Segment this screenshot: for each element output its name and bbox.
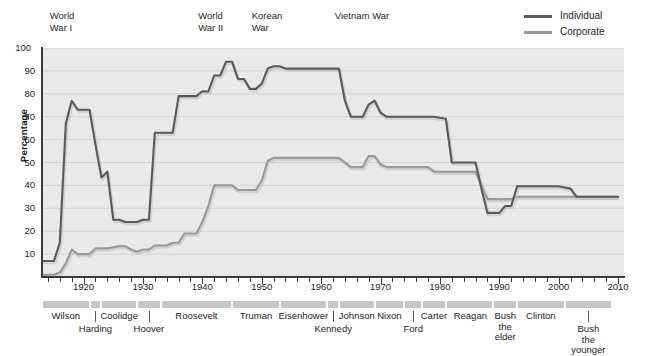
x-axis-tick (119, 278, 120, 282)
x-axis-tick (214, 278, 215, 282)
president-label-line: Wilson (50, 311, 82, 322)
president-label: Bushtheyounger (570, 324, 607, 356)
president-label-line: Ford (403, 324, 424, 335)
president-label-line: Eisenhower (277, 311, 330, 322)
x-axis-tick (499, 278, 500, 284)
x-axis-tick (618, 278, 619, 284)
president-leader-tick (588, 311, 589, 322)
x-axis-tick (155, 278, 156, 282)
president-label: Coolidge (98, 311, 140, 322)
x-axis-tick (179, 278, 180, 282)
x-axis-tick (487, 278, 488, 282)
war-label-line: World (50, 10, 75, 22)
president-bar (328, 301, 338, 308)
x-axis-tick (95, 278, 96, 282)
president-label-line: Truman (240, 311, 272, 322)
president-bar (43, 301, 89, 308)
president-label-line: Hoover (133, 324, 165, 335)
president-bar (518, 301, 564, 308)
y-tick-100: 100 (7, 42, 31, 53)
war-label-line: War II (198, 22, 223, 34)
president-bar (423, 301, 445, 308)
president-label-line: Bush (492, 311, 519, 322)
x-axis-tick (202, 278, 203, 284)
war-label-line: Vietnam War (335, 10, 389, 22)
plot-area (42, 48, 624, 277)
x-axis-tick (143, 278, 144, 284)
y-tick-40: 40 (11, 179, 35, 190)
president-leader-tick (333, 311, 334, 322)
war-label-line: Korean (252, 10, 283, 22)
president-bar (405, 301, 421, 308)
war-label: KoreanWar (252, 10, 283, 33)
president-label: Roosevelt (173, 311, 221, 322)
y-tick-20: 20 (11, 225, 35, 236)
y-tick-70: 70 (11, 111, 35, 122)
war-label: Vietnam War (335, 10, 389, 22)
x-axis-tick (392, 278, 393, 282)
president-label: Wilson (50, 311, 82, 322)
x-axis-tick (523, 278, 524, 282)
x-axis-tick (285, 278, 286, 282)
x-axis-tick (582, 278, 583, 282)
plot-svg (42, 48, 624, 277)
president-label-line: Clinton (522, 311, 559, 322)
war-label-line: War (252, 22, 283, 34)
x-axis-tick (369, 278, 370, 282)
y-tick-90: 90 (11, 65, 35, 76)
president-label: Johnson (338, 311, 375, 322)
x-axis-tick (464, 278, 465, 282)
x-axis-tick (238, 278, 239, 282)
president-label-line: Coolidge (98, 311, 140, 322)
y-tick-10: 10 (11, 248, 35, 259)
president-label-line: elder (492, 332, 519, 343)
legend-swatch-corporate (524, 31, 552, 34)
president-label-line: Nixon (376, 311, 403, 322)
y-tick-30: 30 (11, 202, 35, 213)
x-axis-tick (333, 278, 334, 282)
x-axis-tick (511, 278, 512, 282)
president-bar (566, 301, 612, 308)
x-axis-tick (440, 278, 441, 284)
x-axis-tick (297, 278, 298, 282)
president-label: Bushtheelder (492, 311, 519, 343)
president-label: Harding (77, 324, 114, 335)
president-bar (233, 301, 279, 308)
x-axis-tick (547, 278, 548, 282)
president-bar (162, 301, 231, 308)
president-bar (138, 301, 160, 308)
president-label: Ford (403, 324, 424, 335)
war-label-line: War I (50, 22, 75, 34)
president-bar (376, 301, 404, 308)
x-axis-tick (60, 278, 61, 282)
x-axis-tick (571, 278, 572, 282)
y-tick-50: 50 (11, 157, 35, 168)
president-label-line: Harding (77, 324, 114, 335)
president-label: Kennedy (314, 324, 351, 335)
x-axis-tick (226, 278, 227, 282)
president-bar (340, 301, 374, 308)
president-label-line: Reagan (454, 311, 486, 322)
president-bar (494, 301, 516, 308)
x-axis-tick (428, 278, 429, 282)
president-leader-tick (95, 311, 96, 322)
president-bar (281, 301, 327, 308)
x-axis-tick (404, 278, 405, 282)
president-label: Clinton (522, 311, 559, 322)
president-bar (91, 301, 101, 308)
president-label-line: Roosevelt (173, 311, 221, 322)
president-label-line: younger (570, 345, 607, 356)
x-axis-tick (274, 278, 275, 282)
president-label: Eisenhower (277, 311, 330, 322)
x-axis-tick (357, 278, 358, 282)
x-axis-tick (452, 278, 453, 282)
x-axis-tick (416, 278, 417, 282)
war-label-line: World (198, 10, 223, 22)
president-bar (102, 301, 136, 308)
x-axis-tick (84, 278, 85, 284)
x-axis-tick (72, 278, 73, 282)
x-axis-tick (48, 278, 49, 282)
war-label: WorldWar I (50, 10, 75, 33)
president-label: Hoover (133, 324, 165, 335)
